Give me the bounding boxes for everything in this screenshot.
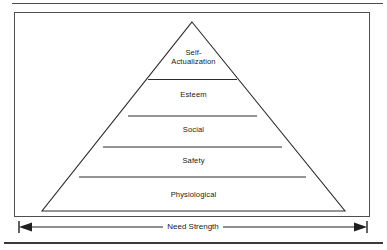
tier-label-self-actualization: Self- Actualization [0, 48, 387, 67]
tier-label-safety: Safety [0, 156, 387, 165]
tier-label-physiological: Physiological [0, 190, 387, 199]
axis-label-need-strength: Need Strength [163, 222, 223, 231]
axis-caption-wrapper: Need Strength [17, 220, 369, 234]
maslow-hierarchy-figure: Self- Actualization Esteem Social Safety… [0, 0, 387, 250]
figure-frame [14, 12, 370, 217]
tier-label-esteem: Esteem [0, 90, 387, 99]
top-divider-rule [12, 3, 383, 4]
need-strength-axis: Need Strength [17, 220, 369, 236]
tier-label-social: Social [0, 125, 387, 134]
bottom-divider-rule [4, 242, 383, 244]
